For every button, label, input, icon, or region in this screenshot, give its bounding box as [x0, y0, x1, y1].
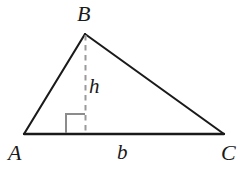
vertex-label-C: C: [221, 142, 236, 164]
base-label-b: b: [117, 142, 128, 163]
geometry-figure: B A C h b: [0, 0, 251, 176]
side-BC-line: [85, 34, 224, 134]
side-AB-line: [24, 34, 85, 134]
triangle-outline: [24, 34, 224, 134]
altitude-label-h: h: [89, 76, 100, 97]
vertex-label-A: A: [8, 142, 21, 164]
vertex-label-B: B: [77, 3, 90, 25]
right-angle-marker: [66, 114, 85, 133]
